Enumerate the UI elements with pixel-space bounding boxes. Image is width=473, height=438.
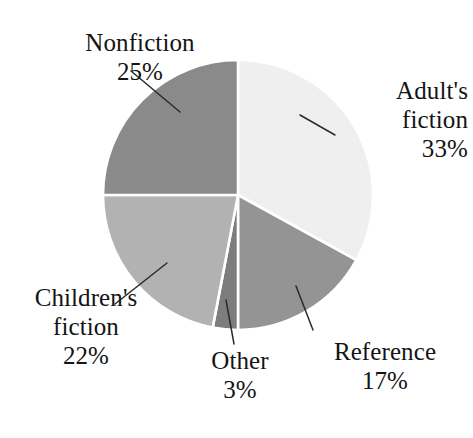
pie-label-childrens-fiction-value: 22% (8, 341, 164, 370)
pie-label-adults-fiction: Adult's fiction 33% (336, 76, 468, 163)
pie-label-other-name: Other (192, 346, 288, 375)
pie-label-nonfiction-name: Nonfiction (58, 28, 222, 57)
pie-chart-figure: Nonfiction 25% Adult's fiction 33% Child… (0, 0, 473, 438)
pie-label-reference-value: 17% (310, 366, 460, 395)
pie-label-adults-fiction-name-1: Adult's (336, 76, 468, 105)
pie-label-adults-fiction-name-2: fiction (336, 105, 468, 134)
pie-label-nonfiction: Nonfiction 25% (58, 28, 222, 86)
pie-label-childrens-fiction-name-2: fiction (8, 312, 164, 341)
pie-label-adults-fiction-value: 33% (336, 134, 468, 163)
pie-label-other-value: 3% (192, 375, 288, 404)
pie-label-other: Other 3% (192, 346, 288, 404)
pie-label-reference: Reference 17% (310, 337, 460, 395)
pie-label-reference-name: Reference (310, 337, 460, 366)
pie-label-nonfiction-value: 25% (58, 57, 222, 86)
pie-label-childrens-fiction-name-1: Children's (8, 283, 164, 312)
pie-label-childrens-fiction: Children's fiction 22% (8, 283, 164, 370)
